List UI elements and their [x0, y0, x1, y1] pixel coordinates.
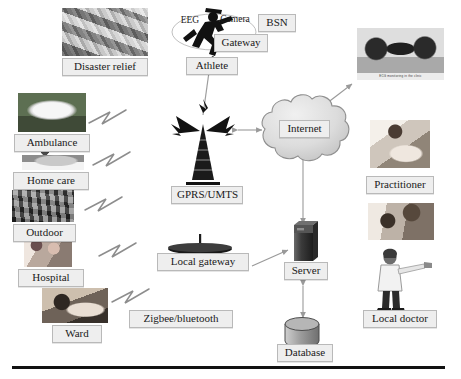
label-local-gateway[interactable]: Local gateway [157, 253, 249, 271]
label-bsn[interactable]: BSN [258, 14, 296, 32]
label-ambulance[interactable]: Ambulance [14, 134, 90, 152]
label-ward[interactable]: Ward [52, 325, 102, 343]
photo-outdoor [12, 190, 74, 222]
label-outdoor[interactable]: Outdoor [13, 224, 76, 242]
label-home-care[interactable]: Home care [13, 172, 89, 190]
bottom-rule [12, 366, 445, 369]
label-server[interactable]: Server [284, 262, 328, 280]
photo-clinic-caption: ECG monitoring in the clinic [357, 73, 444, 80]
photo-practitioner [370, 120, 430, 168]
lightning-link-icon [85, 110, 149, 303]
label-gateway[interactable]: Gateway [214, 34, 268, 52]
doctor-person-icon [376, 249, 432, 312]
database-cylinder-icon [285, 318, 319, 348]
label-eeg[interactable]: EEG [173, 14, 207, 29]
label-hospital[interactable]: Hospital [18, 269, 84, 287]
edge-localgw-server [252, 250, 288, 266]
server-tower-icon [294, 221, 318, 261]
diagram-canvas: ECG monitoring in the clinic Disaster re… [0, 0, 461, 379]
satellite-dish-icon [168, 234, 232, 254]
label-local-doctor[interactable]: Local doctor [363, 310, 437, 328]
photo-ward [42, 288, 108, 323]
photo-ambulance [18, 93, 86, 132]
label-practitioner[interactable]: Practitioner [366, 176, 434, 194]
label-internet[interactable]: Internet [279, 120, 330, 138]
radio-tower-icon [171, 99, 235, 185]
label-athlete[interactable]: Athlete [186, 57, 238, 75]
photo-disaster-relief [62, 8, 148, 56]
photo-clinic-ecg: ECG monitoring in the clinic [357, 28, 444, 80]
label-disaster-relief[interactable]: Disaster relief [62, 58, 148, 76]
label-camera[interactable]: Camera [212, 13, 258, 28]
label-gprs-umts[interactable]: GPRS/UMTS [171, 186, 243, 204]
label-database[interactable]: Database [277, 344, 333, 362]
photo-bedside [368, 203, 434, 240]
label-zigbee-bluetooth[interactable]: Zigbee/bluetooth [129, 310, 233, 328]
